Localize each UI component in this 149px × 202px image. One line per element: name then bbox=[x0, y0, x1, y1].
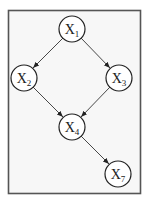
node-subscript: 1 bbox=[75, 29, 80, 39]
node-subscript: 3 bbox=[122, 78, 127, 88]
node-x2: X2 bbox=[11, 65, 37, 91]
node-x7: X7 bbox=[105, 161, 131, 187]
node-x1: X1 bbox=[59, 16, 85, 42]
node-x3: X3 bbox=[106, 65, 132, 91]
node-label: X bbox=[111, 167, 121, 182]
node-label: X bbox=[65, 22, 75, 37]
node-x4: X4 bbox=[59, 114, 85, 140]
node-label: X bbox=[112, 71, 122, 86]
node-subscript: 4 bbox=[75, 127, 80, 137]
node-subscript: 7 bbox=[121, 174, 126, 184]
node-label: X bbox=[17, 71, 27, 86]
node-label: X bbox=[65, 120, 75, 135]
dag-diagram: X1 X2 X3 X4 X7 bbox=[0, 0, 149, 202]
node-subscript: 2 bbox=[27, 78, 32, 88]
